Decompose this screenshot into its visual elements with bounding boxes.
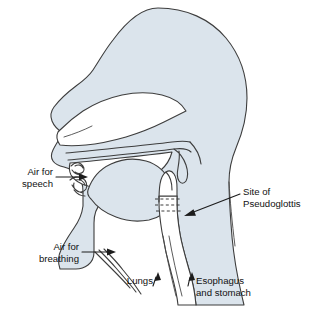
air-for-breathing-line1: Air for (53, 241, 79, 252)
label-air-for-breathing: Air for breathing (39, 241, 80, 264)
air-for-breathing-line2: breathing (39, 253, 79, 264)
vocal-tract-diagram: Air for speech Air for breathing Site of… (0, 0, 322, 313)
site-of-pseudoglottis-line1: Site of (243, 186, 271, 197)
site-of-pseudoglottis-line2: Pseudoglottis (243, 198, 301, 209)
lungs-leader-line (153, 277, 156, 286)
anatomy-svg: Air for speech Air for breathing Site of… (0, 0, 322, 313)
trachea-mid-line (99, 250, 136, 292)
air-for-speech-line2: speech (22, 178, 53, 189)
lungs-arrowhead (155, 272, 161, 281)
esophagus-and-stomach-line2: and stomach (196, 287, 251, 298)
lungs-label: Lungs (127, 275, 153, 286)
leader-lungs (153, 272, 161, 286)
label-air-for-speech: Air for speech (22, 166, 54, 189)
label-esophagus-and-stomach: Esophagus and stomach (196, 275, 251, 298)
trachea-inner-line (104, 249, 141, 294)
esophagus-and-stomach-line1: Esophagus (196, 275, 244, 286)
label-lungs: Lungs (127, 275, 153, 286)
label-site-of-pseudoglottis: Site of Pseudoglottis (243, 186, 301, 209)
trachea-stoma (95, 249, 141, 294)
air-for-breathing-arrowhead (107, 249, 116, 256)
air-for-speech-line1: Air for (27, 166, 53, 177)
